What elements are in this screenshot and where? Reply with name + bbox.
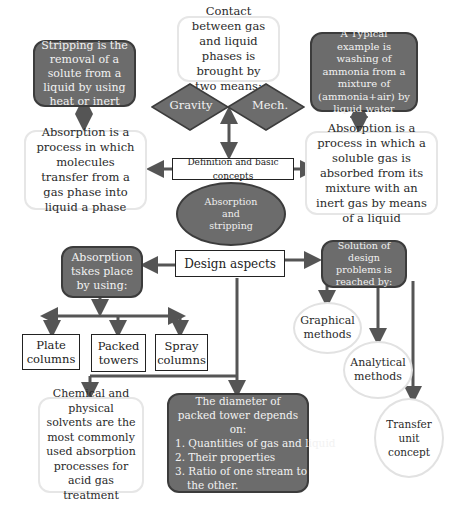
solution-design-problems-box: Solution of design problems is reached b… — [321, 240, 407, 288]
spray-columns-label: Spray columns — [156, 339, 207, 367]
contact-means-text: Contact between gas and liquid phases is… — [185, 4, 272, 94]
plate-columns-label: Plate columns — [23, 338, 79, 366]
diameter-factor-1: 1. Quantities of gas and liquid — [175, 436, 301, 450]
design-aspects-node: Design aspects — [175, 250, 285, 277]
ellipse-line-1: Absorption — [205, 196, 258, 208]
graphical-methods-label: Graphical methods — [295, 314, 360, 342]
contact-means-box: Contact between gas and liquid phases is… — [177, 16, 280, 82]
stripping-definition-box: Stripping is the removal of a solute fro… — [33, 40, 136, 107]
diameter-box-title: The diameter of packed tower depends on: — [175, 394, 301, 436]
packed-tower-diameter-box: The diameter of packed tower depends on:… — [167, 393, 309, 493]
analytical-methods-ellipse: Analytical methods — [343, 341, 413, 399]
diameter-factor-2: 2. Their properties — [175, 450, 301, 464]
ellipse-line-2: and — [222, 208, 240, 220]
typical-example-box: A Typical example is washing of ammonia … — [310, 32, 418, 112]
absorption-takes-place-box: Absorption tskes place by using: — [61, 246, 143, 298]
absorption-definition-left-box: Absorption is a process in which molecul… — [24, 130, 147, 210]
packed-towers-node: Packed towers — [91, 334, 146, 372]
mech-label: Mech. — [245, 98, 295, 112]
solvents-text: Chemical and physical solvents are the m… — [46, 387, 136, 503]
plate-columns-node: Plate columns — [22, 334, 80, 370]
absorption-takes-place-text: Absorption tskes place by using: — [69, 251, 135, 293]
design-aspects-label: Design aspects — [184, 257, 276, 271]
transfer-unit-concept-label: Transfer unit concept — [384, 417, 434, 459]
gravity-label: Gravity — [166, 98, 216, 112]
absorption-definition-right-box: Absorption is a process in which a solub… — [305, 131, 438, 215]
spray-columns-node: Spray columns — [155, 334, 208, 371]
definition-basic-concepts-label: Definition and basic concepts — [173, 155, 293, 183]
definition-basic-concepts-node: Definition and basic concepts — [172, 158, 294, 180]
solvents-box: Chemical and physical solvents are the m… — [38, 397, 144, 493]
graphical-methods-ellipse: Graphical methods — [293, 302, 362, 354]
absorption-definition-right-text: Absorption is a process in which a solub… — [313, 121, 430, 226]
ellipse-line-3: stripping — [209, 220, 253, 232]
transfer-unit-concept-ellipse: Transfer unit concept — [374, 398, 444, 478]
typical-example-text: A Typical example is washing of ammonia … — [318, 28, 410, 116]
diameter-factor-3-cont: the other. — [175, 478, 301, 492]
solution-design-problems-text: Solution of design problems is reached b… — [329, 240, 399, 288]
stripping-definition-text: Stripping is the removal of a solute fro… — [41, 39, 128, 109]
diameter-factor-3: 3. Ratio of one stream to — [175, 464, 301, 478]
packed-towers-label: Packed towers — [92, 339, 145, 367]
absorption-definition-left-text: Absorption is a process in which molecul… — [32, 125, 139, 215]
analytical-methods-label: Analytical methods — [345, 356, 411, 384]
absorption-stripping-ellipse: Absorption and stripping — [176, 182, 286, 246]
